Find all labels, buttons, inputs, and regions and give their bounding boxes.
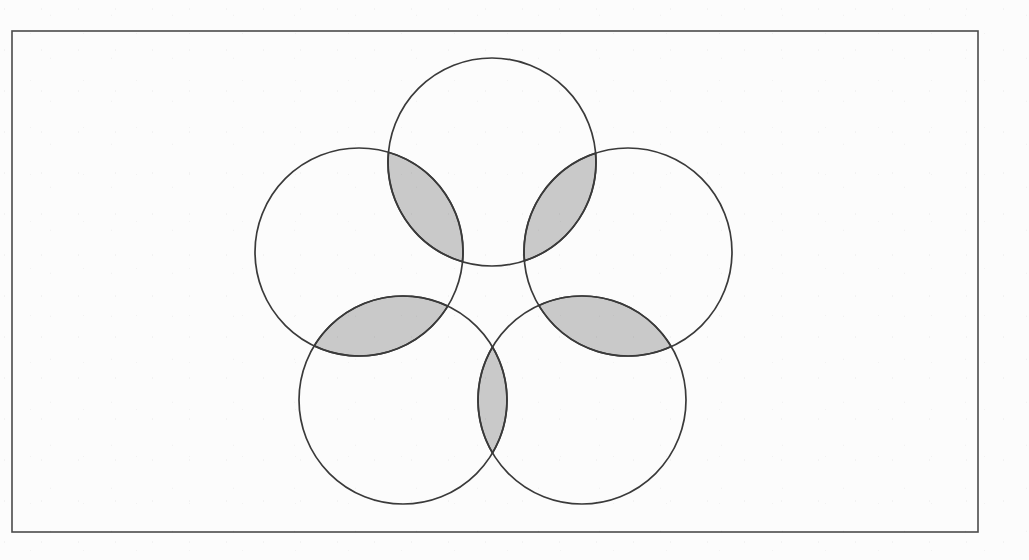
figure-canvas: Shaded overlap: top and upper-leftShaded… xyxy=(0,0,1029,560)
diagram-background xyxy=(0,0,1029,560)
five-circle-pentagon-diagram: Shaded overlap: top and upper-leftShaded… xyxy=(0,0,1029,560)
